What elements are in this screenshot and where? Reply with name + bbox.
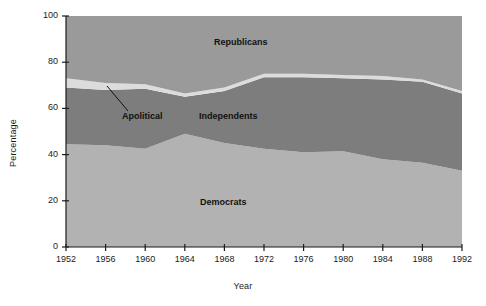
- y-tick-label: 20: [32, 195, 58, 205]
- x-tick-label: 1968: [204, 254, 244, 264]
- y-tick-label: 60: [32, 102, 58, 112]
- x-axis-title: Year: [0, 281, 486, 291]
- series-label-independents: Independents: [199, 111, 258, 121]
- x-tick-label: 1988: [402, 254, 442, 264]
- x-tick-label: 1976: [284, 254, 324, 264]
- x-tick-label: 1956: [86, 254, 126, 264]
- x-tick-label: 1992: [442, 254, 482, 264]
- x-tick-label: 1960: [125, 254, 165, 264]
- x-tick-label: 1980: [323, 254, 363, 264]
- y-tick-label: 0: [32, 241, 58, 251]
- x-tick-label: 1952: [46, 254, 86, 264]
- series-label-republicans: Republicans: [214, 37, 268, 47]
- y-tick-label: 40: [32, 149, 58, 159]
- series-label-apolitical: Apolitical: [122, 111, 163, 121]
- x-tick-label: 1964: [165, 254, 205, 264]
- series-label-democrats: Democrats: [200, 197, 247, 207]
- y-axis-title: Percentage: [8, 108, 18, 178]
- x-tick-label: 1972: [244, 254, 284, 264]
- area-bands: [66, 16, 462, 247]
- y-tick-label: 100: [32, 10, 58, 20]
- chart-figure: Percentage Year 020406080100 19521956196…: [0, 0, 486, 306]
- x-tick-label: 1984: [363, 254, 403, 264]
- y-tick-label: 80: [32, 56, 58, 66]
